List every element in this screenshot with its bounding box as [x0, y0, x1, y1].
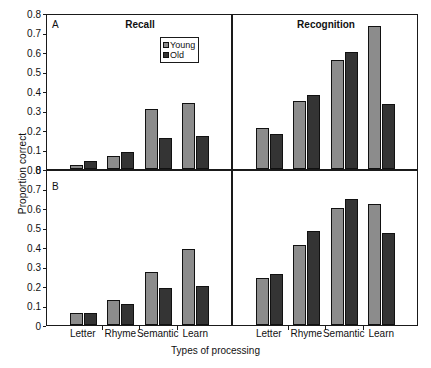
- panel-b-recall: B: [46, 170, 232, 326]
- bar-young: [145, 272, 158, 325]
- legend-label-old: Old: [170, 50, 184, 60]
- y-axis-tick-mark: [43, 53, 46, 54]
- bar-young: [256, 128, 269, 169]
- bar-group: [331, 15, 359, 169]
- y-axis-tick-mark: [43, 34, 46, 35]
- bar-group: [182, 171, 210, 325]
- x-axis-tick-label: Learn: [163, 328, 227, 339]
- panel-a-recognition: Recognition: [232, 14, 418, 170]
- y-axis-tick-label: 0.7: [0, 28, 46, 39]
- y-axis-tick-mark: [43, 307, 46, 308]
- y-axis-tick-label: 0.6: [0, 204, 46, 215]
- y-axis-tick-label: 0.4: [0, 87, 46, 98]
- bar-young: [107, 156, 120, 169]
- bar-young: [256, 278, 269, 325]
- bar-group: [293, 171, 321, 325]
- panel-a-recall: A Recall Young Old: [46, 14, 232, 170]
- panel-row-a: A Recall Young Old Recognition: [46, 14, 418, 170]
- bar-young: [368, 204, 381, 325]
- panel-b-recognition: [232, 170, 418, 326]
- y-axis-ticks-row-a: 0.80.70.60.50.40.30.20.10: [0, 14, 46, 170]
- bar-young: [331, 208, 344, 325]
- legend-entry-old: Old: [163, 50, 195, 60]
- y-axis-tick-mark: [43, 287, 46, 288]
- bar-group: [145, 171, 173, 325]
- y-axis-tick-mark: [43, 268, 46, 269]
- bar-old: [84, 161, 97, 169]
- y-axis-tick-label: 0.3: [0, 106, 46, 117]
- x-axis-labels-b-recall: LetterRhymeSemanticLearn: [46, 328, 232, 344]
- bar-old: [345, 52, 358, 169]
- bar-old: [84, 313, 97, 325]
- bar-young: [368, 26, 381, 169]
- bar-old: [159, 138, 172, 169]
- y-axis-tick-label: 0.6: [0, 48, 46, 59]
- bar-group: [107, 171, 135, 325]
- y-axis-tick-label: 0.5: [0, 67, 46, 78]
- bar-young: [70, 165, 83, 169]
- bar-old: [159, 288, 172, 325]
- bar-old: [270, 274, 283, 325]
- y-axis-tick-mark: [43, 248, 46, 249]
- y-axis-tick-mark: [43, 170, 46, 171]
- bar-young: [70, 313, 83, 325]
- y-axis-ticks-row-b: 0.80.70.60.50.40.30.20.10: [0, 170, 46, 326]
- y-axis-tick-label: 0.3: [0, 262, 46, 273]
- bar-group: [256, 171, 284, 325]
- y-axis-tick-mark: [43, 92, 46, 93]
- y-axis-tick-label: 0.5: [0, 223, 46, 234]
- bar-young: [331, 60, 344, 169]
- panel-grid: A Recall Young Old Recognition: [46, 14, 418, 326]
- bar-group: [331, 171, 359, 325]
- y-axis-tick-label: 0.4: [0, 243, 46, 254]
- bar-old: [270, 134, 283, 169]
- y-axis-tick-mark: [43, 73, 46, 74]
- y-axis-tick-label: 0.7: [0, 184, 46, 195]
- bars-a-recall: [47, 15, 231, 169]
- bar-group: [70, 15, 98, 169]
- y-axis-tick-mark: [43, 190, 46, 191]
- y-axis-tick-mark: [43, 14, 46, 15]
- bar-old: [382, 233, 395, 325]
- bar-group: [293, 15, 321, 169]
- bar-young: [293, 101, 306, 169]
- x-axis-tick-label: Learn: [349, 328, 413, 339]
- bar-young: [107, 300, 120, 325]
- y-axis-tick-mark: [43, 229, 46, 230]
- bar-old: [196, 286, 209, 325]
- bar-group: [256, 15, 284, 169]
- panel-row-b: B 0.80.70.60.50.40.30.20.10 LetterRhymeS…: [46, 170, 418, 326]
- y-axis-tick-mark: [43, 151, 46, 152]
- bar-old: [121, 304, 134, 325]
- legend-entry-young: Young: [163, 40, 195, 50]
- legend: Young Old: [160, 37, 199, 63]
- bar-group: [368, 171, 396, 325]
- legend-swatch-young-icon: [163, 42, 169, 48]
- bar-young: [182, 249, 195, 325]
- bar-old: [121, 152, 134, 169]
- y-axis-tick-label: 0.1: [0, 301, 46, 312]
- y-axis-tick-label: 0.8: [0, 9, 46, 20]
- bar-young: [145, 109, 158, 169]
- bar-group: [368, 15, 396, 169]
- legend-swatch-old-icon: [163, 52, 169, 58]
- bar-old: [382, 104, 395, 169]
- bar-old: [196, 136, 209, 169]
- y-axis-tick-mark: [43, 112, 46, 113]
- y-axis-tick-mark: [43, 209, 46, 210]
- bars-b-recall: [47, 171, 231, 325]
- bar-group: [107, 15, 135, 169]
- x-axis-title: Types of processing: [0, 345, 431, 356]
- bar-old: [307, 231, 320, 325]
- y-axis-tick-label: 0.2: [0, 126, 46, 137]
- y-axis-tick-label: 0.1: [0, 145, 46, 156]
- bar-old: [307, 95, 320, 169]
- y-axis-tick-label: 0.2: [0, 282, 46, 293]
- bars-a-recognition: [233, 15, 417, 169]
- bar-group: [70, 171, 98, 325]
- legend-label-young: Young: [170, 40, 195, 50]
- x-axis-labels-b-recognition: LetterRhymeSemanticLearn: [232, 328, 418, 344]
- y-axis-tick-label: 0: [0, 321, 46, 332]
- bar-young: [293, 245, 306, 325]
- figure-root: Proportion correct Types of processing A…: [0, 0, 431, 368]
